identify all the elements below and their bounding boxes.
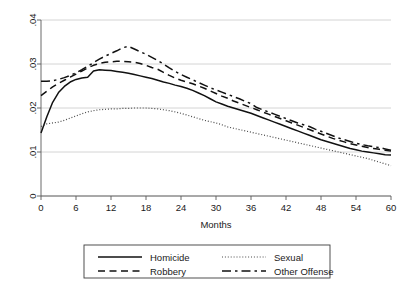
y-tick-label: 0 xyxy=(27,193,38,198)
legend-label-sexual: Sexual xyxy=(274,252,303,263)
legend-label-homicide: Homicide xyxy=(150,252,190,263)
x-tick-label: 24 xyxy=(176,202,187,213)
gridlines-group xyxy=(41,20,391,196)
x-tick-label: 0 xyxy=(38,202,43,213)
x-tick-label: 48 xyxy=(316,202,327,213)
legend-label-other-offense: Other Offense xyxy=(274,266,334,277)
x-tick-label: 60 xyxy=(386,202,397,213)
chart-figure: 0.01.02.03.04 06121824303642485460 Month… xyxy=(0,0,406,285)
x-axis-ticks-group: 06121824303642485460 xyxy=(38,196,396,213)
x-tick-label: 6 xyxy=(73,202,78,213)
x-tick-label: 18 xyxy=(141,202,152,213)
y-axis-ticks-group: 0.01.02.03.04 xyxy=(27,13,42,198)
x-axis-title: Months xyxy=(200,219,231,230)
line-chart: 0.01.02.03.04 06121824303642485460 Month… xyxy=(0,0,406,285)
x-tick-label: 42 xyxy=(281,202,292,213)
x-tick-label: 54 xyxy=(351,202,362,213)
y-tick-label: .02 xyxy=(27,101,38,114)
y-tick-label: .03 xyxy=(27,57,38,70)
y-tick-label: .04 xyxy=(27,13,38,26)
y-tick-label: .01 xyxy=(27,145,38,158)
x-tick-label: 36 xyxy=(246,202,257,213)
legend-label-robbery: Robbery xyxy=(150,266,186,277)
series-line-homicide xyxy=(41,70,391,155)
series-line-sexual xyxy=(41,108,391,166)
series-line-other-offense xyxy=(41,46,391,150)
x-tick-label: 30 xyxy=(211,202,222,213)
x-tick-label: 12 xyxy=(106,202,117,213)
